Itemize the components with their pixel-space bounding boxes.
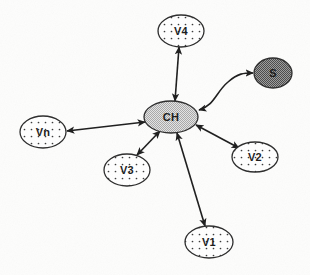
- node-v4[interactable]: V4: [158, 15, 204, 47]
- node-ch[interactable]: CH: [144, 101, 198, 133]
- edge-ch-v4: [175, 47, 179, 101]
- edge-layer: [67, 47, 253, 226]
- edge-ch-v3: [137, 131, 160, 155]
- node-vn[interactable]: Vn: [20, 116, 66, 148]
- edge-ch-vn: [67, 122, 145, 131]
- edge-ch-s: [199, 73, 253, 110]
- node-v3-label: V3: [120, 164, 134, 176]
- node-v2-label: V2: [248, 151, 262, 163]
- node-s[interactable]: S: [254, 58, 292, 88]
- node-ch-label: CH: [163, 111, 179, 123]
- diagram-canvas: V4 S Vn V3 V2 V1: [0, 0, 310, 275]
- edge-ch-v2: [196, 125, 239, 148]
- node-vn-label: Vn: [36, 126, 51, 138]
- node-v4-label: V4: [174, 25, 189, 37]
- node-v1[interactable]: V1: [185, 226, 233, 258]
- edge-ch-v1: [177, 133, 205, 226]
- node-layer: V4 S Vn V3 V2 V1: [20, 15, 292, 258]
- topology-diagram: V4 S Vn V3 V2 V1: [0, 0, 310, 275]
- node-v1-label: V1: [202, 236, 216, 248]
- node-s-label: S: [269, 67, 277, 79]
- node-v3[interactable]: V3: [104, 154, 150, 186]
- node-v2[interactable]: V2: [232, 142, 278, 172]
